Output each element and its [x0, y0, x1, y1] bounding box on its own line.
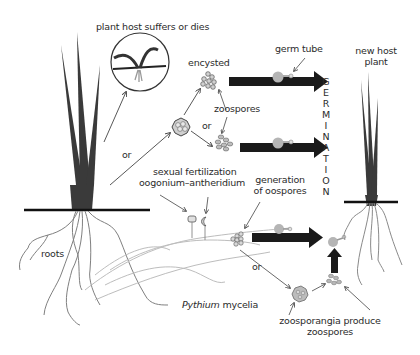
germination-arrow-bottom — [252, 224, 323, 248]
label-mycelia: mycelia — [220, 299, 258, 310]
zoospores-cluster — [215, 135, 233, 151]
germination-letter: R — [320, 98, 332, 109]
germination-letter: M — [320, 109, 332, 120]
label-new-host-plant: new host plant — [352, 46, 400, 68]
oospores-pointer — [245, 202, 260, 228]
germinating-oospore — [328, 235, 346, 247]
label-sexual-fertilization: sexual fertilization oogonium–antheridiu… — [151, 167, 245, 189]
new-host-roots — [344, 203, 402, 285]
germination-letter: A — [320, 142, 332, 153]
germination-letter: I — [320, 120, 332, 131]
label-pythium-mycelia: Pythium mycelia — [182, 300, 258, 311]
diseased-plant-inset — [111, 33, 169, 91]
released-zoospores — [327, 274, 342, 285]
germination-letter: E — [320, 87, 332, 98]
label-zoosporangia-line2: zoospores — [272, 327, 388, 338]
encysted-spores — [201, 72, 217, 90]
label-or-bottom: or — [252, 262, 261, 273]
germination-arrow-top — [229, 71, 328, 92]
upward-arrow — [327, 248, 342, 273]
label-germ-tube: germ tube — [275, 44, 323, 55]
label-zoosporangia-produce: zoosporangia produce zoospores — [272, 316, 388, 338]
arrow-to-zoosporangium-bottom — [240, 250, 290, 288]
arrow-to-zoospores — [191, 131, 212, 146]
host-plant-leaves — [61, 32, 100, 210]
released-zoospores-pointer — [345, 287, 370, 310]
arrow-to-released-zoospores — [312, 284, 325, 291]
zoosporangium-top — [172, 118, 190, 136]
germ-tube-pointer — [294, 58, 305, 71]
germination-letter: G — [320, 76, 332, 87]
zoospores-pointer-down — [222, 117, 227, 133]
arrow-to-encysted — [184, 89, 200, 115]
label-new-host-line2: plant — [352, 57, 400, 68]
germination-arrow-middle — [240, 137, 328, 158]
germination-letter: N — [320, 186, 332, 197]
label-sexual-fertilization-line2: oogonium–antheridium — [139, 178, 245, 189]
germination-letter: N — [320, 131, 332, 142]
germination-letter: O — [320, 175, 332, 186]
zoosporangia-pointer — [289, 303, 294, 315]
roots — [19, 211, 168, 325]
fertilization-pointer-left — [160, 195, 186, 211]
oogonium-antheridium — [188, 216, 206, 240]
label-or-top: or — [202, 121, 211, 132]
label-roots: roots — [41, 249, 64, 260]
fertilization-pointer-right — [206, 197, 208, 213]
label-generation-oospores: generation of oospores — [250, 175, 310, 197]
label-generation-line2: of oospores — [250, 186, 310, 197]
label-zoospores: zoospores — [214, 104, 260, 115]
label-germination-vertical: G E R M I N A T I O N — [320, 76, 332, 197]
germination-letter: T — [320, 153, 332, 164]
label-or-left: or — [122, 150, 131, 161]
label-encysted: encysted — [188, 58, 230, 69]
label-pythium: Pythium — [182, 299, 220, 310]
new-host-plant-leaves — [361, 72, 378, 206]
zoosporangium-bottom — [292, 286, 308, 302]
arrow-to-inset — [104, 92, 126, 142]
germination-letter: I — [320, 164, 332, 175]
label-plant-host-suffers: plant host suffers or dies — [96, 22, 209, 33]
